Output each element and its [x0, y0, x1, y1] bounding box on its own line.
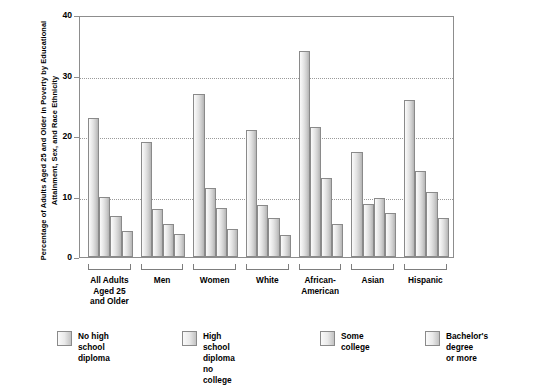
bar[interactable] [426, 192, 437, 257]
group-bracket [141, 264, 184, 270]
bar[interactable] [246, 130, 257, 257]
bar[interactable] [88, 118, 99, 257]
y-axis-tick-label: 20 [46, 132, 72, 141]
group-bracket [246, 264, 289, 270]
bar[interactable] [299, 51, 310, 257]
bar[interactable] [174, 234, 185, 257]
bar[interactable] [141, 142, 152, 257]
bar[interactable] [404, 100, 415, 257]
bar[interactable] [163, 224, 174, 257]
plot-area [79, 16, 454, 258]
bar[interactable] [363, 204, 374, 257]
bar[interactable] [374, 198, 385, 257]
legend-label: High school diploma no college [203, 331, 235, 386]
chart-legend: No high school diplomaHigh school diplom… [0, 330, 536, 369]
bar[interactable] [193, 94, 204, 257]
bar[interactable] [216, 208, 227, 257]
bar[interactable] [257, 205, 268, 257]
y-axis-tick-label: 30 [46, 72, 72, 81]
legend-swatch [425, 331, 440, 346]
bar-groups [80, 17, 453, 257]
legend-swatch [320, 331, 335, 346]
bar[interactable] [351, 152, 362, 257]
bar[interactable] [99, 197, 110, 258]
y-axis-tick-label: 10 [46, 193, 72, 202]
bar[interactable] [227, 229, 238, 257]
bar[interactable] [415, 171, 426, 258]
bar[interactable] [310, 127, 321, 257]
legend-label: Some college [341, 331, 370, 353]
bar[interactable] [152, 209, 163, 257]
bar-group [88, 17, 131, 257]
bar[interactable] [110, 216, 121, 257]
bar-group [193, 17, 236, 257]
bar-group [246, 17, 289, 257]
bar-group [404, 17, 447, 257]
legend-swatch [182, 331, 197, 346]
group-bracket [193, 264, 236, 270]
y-axis-tick-label: 0 [46, 253, 72, 262]
legend-label: No high school diploma [78, 331, 110, 364]
legend-label: Bachelor's degree or more [446, 331, 488, 364]
y-axis-tick-mark [74, 258, 79, 259]
bar[interactable] [268, 218, 279, 257]
legend-swatch [57, 331, 72, 346]
bar-group [351, 17, 394, 257]
group-bracket [404, 264, 447, 270]
bar[interactable] [385, 213, 396, 257]
bar-group [141, 17, 184, 257]
bar-group [299, 17, 342, 257]
bar[interactable] [438, 218, 449, 257]
bar[interactable] [332, 224, 343, 257]
group-bracket [299, 264, 342, 270]
y-axis-tick-label: 40 [46, 11, 72, 20]
group-bracket [351, 264, 394, 270]
bar[interactable] [205, 188, 216, 257]
group-bracket [88, 264, 131, 270]
bar[interactable] [280, 235, 291, 257]
x-axis-group-label: Hispanic [390, 275, 461, 286]
bar[interactable] [321, 178, 332, 257]
bar[interactable] [122, 231, 133, 257]
